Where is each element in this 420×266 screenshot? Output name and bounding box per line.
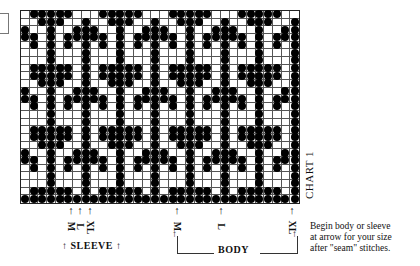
chart-cell [38, 95, 47, 103]
chart-cell [212, 134, 221, 142]
arrow-up-icon: ↑ [215, 205, 227, 215]
chart-cell [143, 42, 152, 50]
chart-cell [177, 49, 186, 57]
chart-cell [134, 19, 143, 27]
chart-cell [99, 49, 108, 57]
chart-cell [195, 19, 204, 27]
chart-cell [64, 42, 73, 50]
chart-cell [195, 42, 204, 50]
chart-cell [108, 157, 117, 165]
chart-grid [20, 10, 300, 204]
chart-cell [38, 111, 47, 119]
chart-cell [117, 142, 126, 150]
chart-cell [238, 134, 247, 142]
chart-cell [125, 88, 134, 96]
chart-cell [56, 142, 65, 150]
chart-cell [91, 142, 100, 150]
chart-cell [125, 195, 134, 203]
chart-cell [186, 195, 195, 203]
body-bracket-left-horizontal [177, 253, 214, 254]
chart-cell [56, 172, 65, 180]
chart-cell [134, 49, 143, 57]
body-bracket-left-vertical [177, 236, 178, 253]
chart-cell [282, 165, 291, 173]
chart-cell [143, 180, 152, 188]
chart-cell [238, 80, 247, 88]
chart-cell [177, 34, 186, 42]
chart-cell [203, 119, 212, 127]
chart-cell [21, 72, 30, 80]
chart-cell [134, 172, 143, 180]
chart-cell [99, 11, 108, 19]
chart-cell [30, 80, 39, 88]
chart-cell [195, 111, 204, 119]
chart-cell [73, 157, 82, 165]
chart-cell [256, 142, 265, 150]
chart-cell [247, 111, 256, 119]
chart-cell [282, 65, 291, 73]
chart-cell [143, 65, 152, 73]
chart-cell [73, 42, 82, 50]
chart-cell [230, 72, 239, 80]
chart-cell [212, 111, 221, 119]
chart-cell [117, 195, 126, 203]
chart-cell [21, 134, 30, 142]
chart-cell [247, 42, 256, 50]
chart-cell [160, 180, 169, 188]
chart-cell [30, 49, 39, 57]
arrow-up-icon: ↑ [62, 240, 68, 251]
chart-cell [91, 119, 100, 127]
note-line: after "seam" stitches. [310, 243, 420, 254]
chart-cell [195, 88, 204, 96]
chart-cell [125, 172, 134, 180]
chart-cell [264, 172, 273, 180]
chart-cell [125, 42, 134, 50]
chart-cell [230, 195, 239, 203]
chart-cell [125, 26, 134, 34]
chart-cell [143, 49, 152, 57]
chart-cell [177, 19, 186, 27]
chart-cell [238, 42, 247, 50]
chart-cell [203, 142, 212, 150]
chart-cell [91, 195, 100, 203]
chart-cell [143, 34, 152, 42]
chart-cell [38, 80, 47, 88]
chart-cell [230, 34, 239, 42]
chart-cell [73, 49, 82, 57]
chart-cell [273, 42, 282, 50]
chart-cell [282, 111, 291, 119]
chart-cell [169, 103, 178, 111]
chart-cell [73, 34, 82, 42]
chart-cell [99, 103, 108, 111]
chart-cell [143, 172, 152, 180]
chart-cell [108, 80, 117, 88]
chart-cell [99, 80, 108, 88]
chart-cell [91, 11, 100, 19]
note-line: Begin body or sleeve [310, 221, 420, 232]
chart-cell [143, 72, 152, 80]
chart-cell [64, 103, 73, 111]
chart-cell [160, 172, 169, 180]
chart-cell [264, 119, 273, 127]
chart-cell [195, 172, 204, 180]
chart-cell [47, 195, 56, 203]
chart-cell [64, 11, 73, 19]
chart-cell [282, 134, 291, 142]
chart-cell [282, 180, 291, 188]
chart-cell [108, 172, 117, 180]
chart-cell [134, 142, 143, 150]
chart-cell [30, 42, 39, 50]
chart-cell [212, 42, 221, 50]
chart-cell [38, 88, 47, 96]
chart-cell [290, 195, 299, 203]
chart-cell [73, 126, 82, 134]
chart-cell [56, 111, 65, 119]
chart-cell [282, 142, 291, 150]
chart-cell [195, 49, 204, 57]
chart-cell [264, 34, 273, 42]
chart-cell [195, 149, 204, 157]
chart-cell [91, 165, 100, 173]
chart-cell [273, 142, 282, 150]
chart-cell [99, 165, 108, 173]
chart-cell [238, 11, 247, 19]
